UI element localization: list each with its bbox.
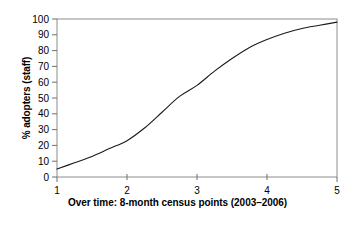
y-tick-label: 30: [38, 124, 50, 135]
y-axis-tick-labels: 100 90 80 70 60 50 40 30 20 10 0: [32, 14, 49, 183]
adoption-curve: [57, 22, 337, 169]
y-tick-label: 20: [38, 140, 50, 151]
chart-figure: % adopters (staff) 100 90 80 70 60 50: [0, 0, 355, 226]
plot-area: 100 90 80 70 60 50 40 30 20 10 0 1 2 3 4…: [0, 0, 355, 226]
y-tick-label: 60: [38, 77, 50, 88]
y-tick-label: 50: [38, 93, 50, 104]
y-tick-label: 80: [38, 45, 50, 56]
x-tick-label: 3: [194, 185, 200, 196]
x-axis-tick-labels: 1 2 3 4 5: [54, 185, 340, 196]
x-tick-label: 2: [124, 185, 130, 196]
y-tick-label: 70: [38, 61, 50, 72]
x-tick-label: 4: [264, 185, 270, 196]
x-axis-ticks: [57, 174, 337, 182]
y-tick-label: 10: [38, 156, 50, 167]
x-tick-label: 5: [334, 185, 340, 196]
x-axis-title: Over time: 8-month census points (2003–2…: [0, 197, 355, 208]
y-tick-label: 0: [43, 172, 49, 183]
y-tick-label: 90: [38, 29, 50, 40]
y-axis-ticks: [52, 19, 57, 177]
y-tick-label: 40: [38, 108, 50, 119]
x-tick-label: 1: [54, 185, 60, 196]
y-tick-label: 100: [32, 14, 49, 25]
